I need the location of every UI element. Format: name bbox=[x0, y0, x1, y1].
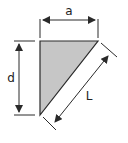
dimension-d: d bbox=[7, 41, 35, 115]
dimension-a: a bbox=[40, 4, 98, 38]
label-d: d bbox=[7, 71, 15, 85]
label-a: a bbox=[65, 4, 72, 18]
label-L: L bbox=[86, 89, 93, 103]
triangle-diagram: a d L bbox=[0, 0, 128, 143]
extension-line-L-top bbox=[101, 43, 117, 57]
extension-line-L-bottom bbox=[43, 117, 56, 130]
